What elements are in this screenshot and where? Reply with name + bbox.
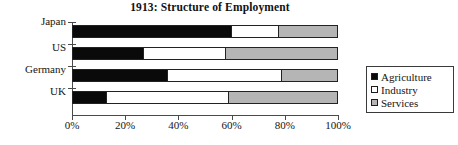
bar-segment-germany-agriculture xyxy=(72,69,168,82)
y-axis-label-japan: Japan xyxy=(0,15,66,27)
x-axis-line xyxy=(72,115,338,116)
bar-germany xyxy=(72,69,338,82)
y-axis-label-us: US xyxy=(0,41,66,53)
legend-swatch-services-icon xyxy=(371,99,378,106)
x-axis-label-20pct: 20% xyxy=(102,119,148,131)
bar-uk xyxy=(72,91,338,104)
bar-us xyxy=(72,47,338,60)
plot-area xyxy=(72,22,338,116)
x-axis-label-80pct: 80% xyxy=(262,119,308,131)
legend-item-industry: Industry xyxy=(371,83,450,96)
bar-japan xyxy=(72,25,338,38)
bar-segment-us-agriculture xyxy=(72,47,144,60)
y-axis-tick-us xyxy=(68,44,76,45)
bar-segment-uk-agriculture xyxy=(72,91,107,104)
legend-item-agriculture: Agriculture xyxy=(371,70,450,83)
legend-label-agriculture: Agriculture xyxy=(381,71,432,83)
y-axis-label-germany: Germany xyxy=(0,63,66,75)
y-axis-label-uk: UK xyxy=(0,85,66,97)
bar-segment-japan-services xyxy=(279,25,338,38)
x-axis-label-100pct: 100% xyxy=(315,119,361,131)
chart-title: 1913: Structure of Employment xyxy=(0,1,420,13)
x-axis-label-60pct: 60% xyxy=(209,119,255,131)
bar-segment-germany-industry xyxy=(168,69,282,82)
bar-segment-japan-agriculture xyxy=(72,25,232,38)
legend-swatch-industry-icon xyxy=(371,86,378,93)
x-axis-label-0pct: 0% xyxy=(49,119,95,131)
bar-segment-germany-services xyxy=(282,69,338,82)
bar-segment-uk-industry xyxy=(107,91,229,104)
y-axis-tick-germany xyxy=(68,66,76,67)
x-axis-label-40pct: 40% xyxy=(155,119,201,131)
bar-segment-us-services xyxy=(226,47,338,60)
y-axis-tick-uk xyxy=(68,88,76,89)
legend-swatch-agriculture-icon xyxy=(371,73,378,80)
bar-segment-japan-industry xyxy=(232,25,280,38)
y-axis-tick-japan xyxy=(68,22,76,23)
legend-label-industry: Industry xyxy=(381,84,418,96)
bar-segment-uk-services xyxy=(229,91,338,104)
employment-structure-chart: 1913: Structure of Employment JapanUSGer… xyxy=(0,0,458,145)
bar-segment-us-industry xyxy=(144,47,226,60)
chart-legend: AgricultureIndustryServices xyxy=(366,66,454,113)
legend-item-services: Services xyxy=(371,96,450,109)
legend-label-services: Services xyxy=(381,97,418,109)
